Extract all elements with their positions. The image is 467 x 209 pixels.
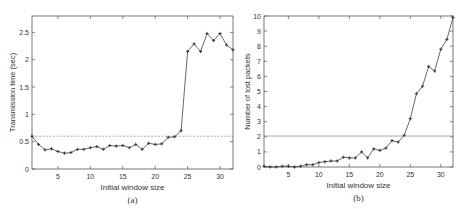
data-point-marker: [305, 163, 308, 166]
data-point-marker: [115, 144, 118, 147]
y-tick-label: 1.5: [19, 84, 29, 91]
y-axis-label: Transmission time (sec): [8, 52, 17, 132]
data-series-line: [32, 34, 233, 154]
data-point-marker: [63, 152, 66, 155]
data-point-marker: [329, 159, 332, 162]
data-point-marker: [50, 147, 53, 150]
x-tick-label: 30: [437, 171, 445, 178]
data-point-marker: [89, 146, 92, 149]
line-chart-lost-packets: 51015202530012345678910Initial window si…: [235, 0, 467, 209]
y-tick-label: 2: [25, 56, 29, 63]
x-tick-label: 10: [86, 173, 94, 180]
data-point-marker: [336, 159, 339, 162]
x-tick-label: 15: [119, 173, 127, 180]
data-point-marker: [56, 150, 59, 153]
x-tick-label: 20: [151, 173, 159, 180]
x-tick-label: 5: [56, 173, 60, 180]
y-tick-label: 0.5: [19, 138, 29, 145]
data-point-marker: [378, 149, 381, 152]
data-point-marker: [311, 163, 314, 166]
data-point-marker: [76, 148, 79, 151]
y-tick-label: 0: [257, 164, 261, 171]
data-point-marker: [154, 143, 157, 146]
y-tick-label: 9: [257, 28, 261, 35]
x-tick-label: 5: [286, 171, 290, 178]
y-tick-label: 10: [253, 13, 261, 20]
x-tick-label: 25: [406, 171, 414, 178]
chart-panel-b: 51015202530012345678910Initial window si…: [235, 0, 467, 209]
data-point-marker: [275, 165, 278, 168]
data-point-marker: [69, 151, 72, 154]
x-tick-label: 25: [184, 173, 192, 180]
data-series-line: [264, 18, 453, 168]
y-tick-label: 1: [25, 111, 29, 118]
y-axis-label: Number of lost packets: [243, 53, 252, 130]
panel-caption: (b): [353, 193, 364, 203]
x-tick-label: 15: [345, 171, 353, 178]
chart-panel-a: 5101520253000.511.522.5Initial window si…: [0, 0, 235, 209]
data-point-marker: [293, 165, 296, 168]
data-point-marker: [95, 145, 98, 148]
y-tick-label: 7: [257, 58, 261, 65]
y-tick-label: 6: [257, 73, 261, 80]
data-point-marker: [108, 144, 111, 147]
data-point-marker: [323, 160, 326, 163]
y-tick-label: 3: [257, 118, 261, 125]
panel-caption: (a): [128, 195, 138, 205]
x-axis-label: Initial window size: [326, 181, 391, 190]
y-tick-label: 2: [257, 133, 261, 140]
x-tick-label: 20: [376, 171, 384, 178]
y-tick-label: 1: [257, 148, 261, 155]
data-point-marker: [268, 165, 271, 168]
data-point-marker: [317, 161, 320, 164]
plot-frame: [264, 16, 453, 167]
x-tick-label: 30: [216, 173, 224, 180]
data-point-marker: [409, 117, 412, 120]
y-tick-label: 2.5: [19, 29, 29, 36]
data-point-marker: [348, 156, 351, 159]
data-point-marker: [121, 144, 124, 147]
y-tick-label: 4: [257, 103, 261, 110]
data-point-marker: [82, 148, 85, 151]
data-point-marker: [128, 146, 131, 149]
x-axis-label: Initial window size: [100, 183, 165, 192]
line-chart-transmission-time: 5101520253000.511.522.5Initial window si…: [0, 0, 235, 209]
y-tick-label: 8: [257, 43, 261, 50]
y-tick-label: 0: [25, 166, 29, 173]
x-tick-label: 10: [315, 171, 323, 178]
y-tick-label: 5: [257, 88, 261, 95]
